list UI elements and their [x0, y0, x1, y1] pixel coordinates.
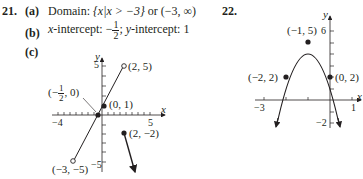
g-label-m2-2: (−2, 2) [248, 71, 278, 83]
g-point-0-2 [327, 74, 332, 79]
c-point-0-1 [101, 103, 106, 108]
g-y-label: y [323, 8, 328, 20]
c-point-2-5-open [122, 64, 127, 69]
c-label-mhalf-0: (−12, 0) [48, 84, 79, 103]
c-tick-5y: 5 [94, 59, 99, 70]
c-x-label: x [161, 103, 166, 115]
g-x-label: x [357, 90, 362, 102]
g-x-ticks [264, 97, 352, 100]
c-tick-m4: −4 [52, 117, 63, 128]
c-label-2-m2: (2, −2) [129, 127, 159, 139]
c-label-2-5: (2, 5) [128, 60, 152, 72]
g-label-0-2: (0, 2) [335, 71, 359, 83]
c-x-ticks [58, 112, 150, 115]
c-point-mhalf-0 [95, 112, 100, 117]
c-label-0-1: (0, 1) [109, 98, 133, 110]
c-tick-m5: −5 [91, 159, 102, 170]
g-label-vertex: (−1, 5) [287, 24, 317, 36]
c-label-m3-m5: (−3, −5) [52, 163, 88, 175]
c-point-2-m2 [121, 130, 126, 135]
g-point-vertex [305, 39, 310, 44]
g-tick-1: 1 [351, 102, 356, 113]
g-tick-6: 6 [321, 25, 326, 36]
g-tick-m3: −3 [254, 102, 265, 113]
c-leader [83, 98, 96, 112]
g-tick-m2: −2 [316, 117, 327, 128]
g-point-m2-2 [283, 74, 288, 79]
c-y-ticks [102, 66, 106, 162]
